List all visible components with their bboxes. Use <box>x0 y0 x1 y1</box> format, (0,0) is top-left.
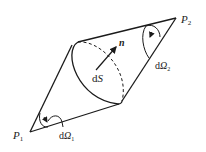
label-p1: P1 <box>12 129 24 143</box>
label-n: n <box>119 37 125 48</box>
diagram-canvas: P1 P2 n dS dΩ1 dΩ2 <box>0 0 206 152</box>
normal-vector-arrow <box>96 47 116 70</box>
label-ds: dS <box>92 72 104 84</box>
label-domega1: dΩ1 <box>59 130 74 142</box>
label-domega2: dΩ2 <box>155 60 170 72</box>
cone-diagram: P1 P2 n dS dΩ1 dΩ2 <box>0 0 206 152</box>
label-p2: P2 <box>180 13 192 27</box>
solid-angle-arc-2 <box>143 25 160 58</box>
